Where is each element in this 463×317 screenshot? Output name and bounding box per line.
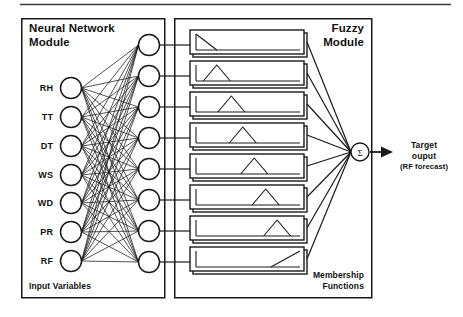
input-node-rh[interactable] [61, 78, 82, 99]
neural-module-title-line2: Module [29, 36, 70, 48]
synapse-line-i5-h4 [82, 138, 139, 203]
hidden-node-3[interactable] [139, 97, 160, 118]
input-label-rh: RH [20, 83, 53, 93]
fuzzy-module-title-line2: Module [323, 36, 364, 48]
target-output-label: Target ouput (RF forecast) [388, 140, 460, 173]
target-output-line2: ouput [412, 151, 436, 161]
input-label-wd: WD [20, 198, 53, 208]
input-label-pr: PR [20, 227, 53, 237]
synapse-line-i5-h1 [82, 45, 139, 203]
hidden-node-2[interactable] [139, 66, 160, 87]
hidden-node-6[interactable] [139, 190, 160, 211]
input-variables-label: Input Variables [29, 281, 91, 292]
target-output-line1: Target [411, 140, 437, 150]
synapse-line-i6-h7 [82, 231, 139, 232]
neural-module-title: Neural Network Module [29, 22, 115, 49]
neural-module-title-line1: Neural Network [29, 22, 115, 34]
synapse-line-i7-h7 [82, 231, 139, 261]
fuzzy-module-title: Fuzzy Module [271, 22, 364, 49]
fuzzy-module-title-line1: Fuzzy [332, 22, 364, 34]
synapse-line-i7-h8 [82, 261, 139, 262]
mf-to-sum-line-3 [307, 104, 351, 152]
input-label-rf: RF [20, 256, 53, 266]
input-node-rf[interactable] [61, 251, 82, 272]
synapse-line-i7-h2 [82, 76, 139, 261]
mf-to-sum-line-8 [307, 152, 351, 259]
input-label-dt: DT [20, 141, 53, 151]
mf-to-sum-line-4 [307, 135, 351, 152]
hidden-node-5[interactable] [139, 159, 160, 180]
hidden-node-4[interactable] [139, 128, 160, 149]
synapse-line-i7-h1 [82, 45, 139, 261]
input-label-ws: WS [20, 170, 53, 180]
input-node-ws[interactable] [61, 165, 82, 186]
diagram-canvas: Σ Neural Network Module RH TT DT WS WD P… [0, 0, 463, 317]
synapse-line-i2-h1 [82, 45, 139, 117]
input-node-wd[interactable] [61, 193, 82, 214]
hidden-node-1[interactable] [139, 35, 160, 56]
input-node-pr[interactable] [61, 222, 82, 243]
input-label-tt: TT [20, 112, 53, 122]
membership-functions-line1: Membership [313, 270, 364, 280]
summation-symbol: Σ [357, 148, 362, 158]
hidden-node-7[interactable] [139, 221, 160, 242]
mf-to-sum-line-1 [307, 42, 351, 152]
mf-to-sum-line-2 [307, 73, 351, 152]
hidden-node-8[interactable] [139, 252, 160, 273]
input-node-dt[interactable] [61, 136, 82, 157]
synapse-line-i4-h3 [82, 107, 139, 175]
target-output-line3: (RF forecast) [400, 162, 448, 171]
input-node-tt[interactable] [61, 107, 82, 128]
membership-functions-line2: Functions [322, 281, 364, 291]
membership-functions-label: Membership Functions [277, 270, 364, 291]
